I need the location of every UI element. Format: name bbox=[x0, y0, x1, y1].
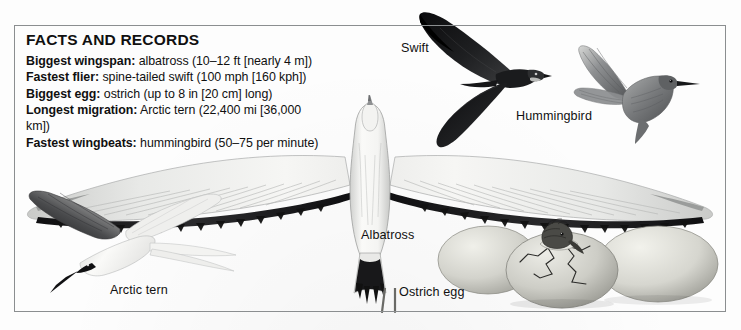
fact-biggest-egg: Biggest egg: ostrich (up to 8 in [20 cm]… bbox=[26, 86, 356, 102]
page-title: FACTS AND RECORDS bbox=[26, 31, 356, 49]
fact-label: Fastest wingbeats: bbox=[26, 136, 137, 150]
fact-longest-migration: Longest migration: Arctic tern (22,400 m… bbox=[26, 102, 326, 135]
fact-label: Biggest wingspan: bbox=[26, 54, 135, 68]
label-arctic-tern: Arctic tern bbox=[110, 283, 168, 297]
fact-value: spine-tailed swift (100 mph [160 kph]) bbox=[102, 70, 306, 84]
ostrich-egg-illustration bbox=[436, 212, 726, 312]
fact-label: Longest migration: bbox=[26, 103, 137, 117]
fact-value: ostrich (up to 8 in [20 cm] long) bbox=[104, 87, 272, 101]
fact-fastest-wingbeats: Fastest wingbeats: hummingbird (50–75 pe… bbox=[26, 135, 356, 151]
label-hummingbird: Hummingbird bbox=[516, 109, 592, 123]
arctic-tern-illustration bbox=[22, 185, 272, 295]
swift-illustration bbox=[360, 8, 560, 158]
fact-label: Biggest egg: bbox=[26, 87, 100, 101]
fact-label: Fastest flier: bbox=[26, 70, 99, 84]
label-swift: Swift bbox=[401, 41, 429, 55]
label-ostrich-egg: Ostrich egg bbox=[399, 285, 465, 299]
fact-biggest-wingspan: Biggest wingspan: albatross (10–12 ft [n… bbox=[26, 53, 356, 69]
fact-value: albatross (10–12 ft [nearly 4 m]) bbox=[139, 54, 312, 68]
fact-value: hummingbird (50–75 per minute) bbox=[140, 136, 318, 150]
fact-fastest-flier: Fastest flier: spine-tailed swift (100 m… bbox=[26, 69, 356, 85]
illustration-page: FACTS AND RECORDS Biggest wingspan: alba… bbox=[0, 0, 741, 330]
hummingbird-illustration bbox=[565, 40, 700, 145]
label-albatross: Albatross bbox=[361, 228, 414, 242]
facts-panel: FACTS AND RECORDS Biggest wingspan: alba… bbox=[26, 31, 356, 151]
